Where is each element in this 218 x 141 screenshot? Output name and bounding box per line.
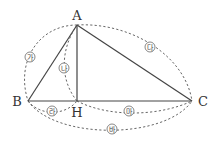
circled-label-ra: 라 [47, 106, 57, 116]
circled-label-na: 나 [59, 63, 69, 73]
svg-text:바: 바 [109, 125, 116, 134]
arc-na-ah [64, 25, 77, 101]
circled-label-ma: 마 [124, 106, 134, 116]
arc-ma-hc [77, 101, 192, 113]
svg-text:나: 나 [61, 64, 68, 73]
vertex-label-a: A [71, 8, 82, 23]
vertex-label-b: B [12, 94, 22, 109]
circled-label-da: 다 [145, 42, 155, 52]
svg-text:마: 마 [126, 107, 133, 116]
vertex-label-h: H [71, 105, 82, 120]
svg-text:가: 가 [27, 53, 34, 62]
svg-text:라: 라 [49, 107, 56, 116]
circled-label-ba: 바 [107, 124, 117, 134]
svg-text:다: 다 [147, 43, 154, 52]
side-ac [77, 25, 192, 101]
circled-label-ga: 가 [25, 52, 35, 62]
triangle-diagram: A B C H 가 나 다 라 마 바 [0, 0, 218, 141]
vertex-label-c: C [198, 94, 208, 109]
